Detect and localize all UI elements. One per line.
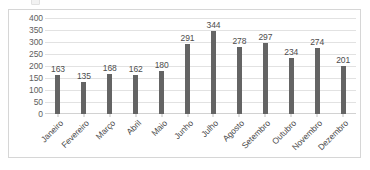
bar[interactable] (81, 82, 86, 114)
bar[interactable] (211, 31, 216, 114)
x-label-slot: Dezembro (330, 116, 356, 158)
y-axis-tick-label: 400 (29, 13, 43, 23)
chart-plot-wrapper: 400350300250200150100500 163135168162180… (9, 10, 362, 159)
bar-value-label: 297 (258, 32, 272, 42)
bar[interactable] (133, 75, 138, 114)
y-axis-tick-label: 350 (29, 25, 43, 35)
x-label-slot: Abril (123, 116, 149, 158)
bar-value-label: 291 (181, 33, 195, 43)
bar-value-label: 274 (310, 37, 324, 47)
bar[interactable] (107, 74, 112, 114)
bar-slot: 297 (252, 18, 278, 114)
plot-area: 163135168162180291344278297234274201 (45, 18, 356, 114)
x-label-slot: Junho (175, 116, 201, 158)
bar-value-label: 278 (232, 36, 246, 46)
x-label-slot: Março (97, 116, 123, 158)
x-label-slot: Fevereiro (71, 116, 97, 158)
y-axis-tick-label: 200 (29, 61, 43, 71)
bar-slot: 234 (278, 18, 304, 114)
bar[interactable] (159, 71, 164, 114)
y-axis-tick-label: 100 (29, 85, 43, 95)
bar-slot: 278 (226, 18, 252, 114)
x-axis-tick-label: Junho (172, 118, 195, 141)
chart-screenshot: 400350300250200150100500 163135168162180… (0, 0, 370, 170)
bar[interactable] (289, 58, 294, 114)
bar-slot: 344 (201, 18, 227, 114)
y-axis-tick-label: 250 (29, 49, 43, 59)
y-axis-tick-label: 0 (38, 109, 43, 119)
bar-value-label: 180 (155, 60, 169, 70)
bar-slot: 162 (123, 18, 149, 114)
bar-slot: 135 (71, 18, 97, 114)
bar-value-label: 344 (207, 20, 221, 30)
y-axis-tick-label: 150 (29, 73, 43, 83)
clipped-title-remnant (31, 0, 40, 5)
bar[interactable] (341, 66, 346, 114)
x-axis-tick-label: Abril (124, 118, 143, 137)
bar[interactable] (263, 43, 268, 114)
bar-slot: 168 (97, 18, 123, 114)
bar[interactable] (55, 75, 60, 114)
x-axis-tick-label: Março (93, 118, 116, 141)
x-label-slot: Maio (149, 116, 175, 158)
y-axis-tick-label: 300 (29, 37, 43, 47)
bar[interactable] (185, 44, 190, 114)
bar-value-label: 162 (129, 64, 143, 74)
bar-value-label: 168 (103, 63, 117, 73)
chart-frame: 400350300250200150100500 163135168162180… (8, 9, 361, 158)
bar-slot: 163 (45, 18, 71, 114)
bar[interactable] (237, 47, 242, 114)
bar-value-label: 135 (77, 71, 91, 81)
bar-slot: 274 (304, 18, 330, 114)
x-axis-tick-label: Maio (149, 118, 169, 138)
bar-slot: 201 (330, 18, 356, 114)
bar-slot: 180 (149, 18, 175, 114)
bar-series: 163135168162180291344278297234274201 (45, 18, 356, 114)
bar[interactable] (315, 48, 320, 114)
bar-value-label: 163 (51, 64, 65, 74)
bar-value-label: 234 (284, 47, 298, 57)
y-axis-tick-label: 50 (34, 97, 43, 107)
x-axis-tick-label: Julho (199, 118, 220, 139)
bar-slot: 291 (175, 18, 201, 114)
x-axis-tick-labels: JaneiroFevereiroMarçoAbrilMaioJunhoJulho… (45, 116, 356, 158)
bar-value-label: 201 (336, 55, 350, 65)
